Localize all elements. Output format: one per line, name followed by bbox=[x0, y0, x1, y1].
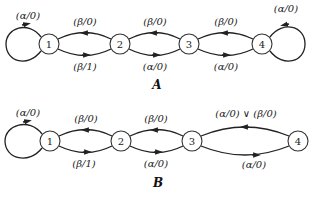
arrow-icon bbox=[284, 24, 289, 25]
edge-label-b-1-2: (β/1) bbox=[72, 158, 95, 169]
edge-label-a-3-2: (β/0) bbox=[143, 16, 166, 27]
node-label-b-2: 2 bbox=[118, 136, 124, 147]
node-label-a-3: 3 bbox=[186, 39, 192, 50]
edge-label-b-4-3: (α/0) ∨ (β/0) bbox=[215, 108, 276, 119]
edge-b-1-1 bbox=[5, 125, 42, 159]
node-label-b-4: 4 bbox=[295, 136, 301, 147]
state-diagrams: (α/0) (β/0) (β/1) (β/0) (α/0) (β/0) (α/0… bbox=[0, 0, 316, 199]
edge-label-b-3-2: (β/0) bbox=[144, 113, 167, 124]
edge-label-a-4-4: (α/0) bbox=[274, 3, 298, 14]
edge-label-b-3-4: (α/0) bbox=[242, 159, 266, 170]
edge-a-4-4 bbox=[270, 27, 305, 61]
edge-a-1-1 bbox=[6, 28, 41, 62]
caption-a: A bbox=[151, 78, 161, 92]
diagram-a: (α/0) (β/0) (β/1) (β/0) (α/0) (β/0) (α/0… bbox=[6, 3, 305, 92]
caption-b: B bbox=[152, 176, 163, 190]
node-label-b-1: 1 bbox=[47, 136, 53, 147]
edge-label-a-2-3: (α/0) bbox=[143, 61, 167, 72]
arrow-icon bbox=[23, 121, 28, 122]
node-label-a-2: 2 bbox=[117, 39, 123, 50]
diagram-b: (α/0) (β/0) (β/1) (β/0) (α/0) (α/0) ∨ (β… bbox=[5, 107, 308, 190]
arrow-icon bbox=[22, 24, 27, 25]
node-label-a-4: 4 bbox=[259, 39, 265, 50]
edge-label-a-1-1: (α/0) bbox=[16, 10, 40, 21]
edge-label-a-2-1: (β/0) bbox=[73, 16, 96, 27]
edge-label-a-3-4: (α/0) bbox=[214, 61, 238, 72]
edge-b-4-3 bbox=[201, 127, 289, 136]
edge-label-b-2-1: (β/0) bbox=[74, 113, 97, 124]
edge-label-a-4-3: (β/0) bbox=[214, 16, 237, 27]
edge-label-a-1-2: (β/1) bbox=[73, 61, 96, 72]
node-label-a-1: 1 bbox=[46, 39, 52, 50]
edge-label-b-1-1: (α/0) bbox=[16, 107, 40, 118]
edge-b-3-4 bbox=[201, 146, 289, 155]
edge-label-b-2-3: (α/0) bbox=[144, 158, 168, 169]
node-label-b-3: 3 bbox=[189, 136, 195, 147]
